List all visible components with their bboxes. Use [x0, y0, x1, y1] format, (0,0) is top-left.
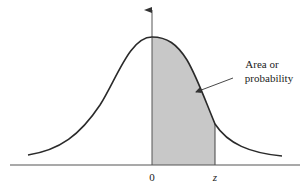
annotation-line1: Area or — [245, 58, 279, 70]
origin-label: 0 — [149, 171, 155, 183]
annotation-arrow — [196, 78, 233, 92]
z-label: z — [212, 171, 218, 183]
normal-curve-diagram: Area or probability 0 z — [0, 0, 308, 185]
annotation-line2: probability — [245, 72, 294, 84]
